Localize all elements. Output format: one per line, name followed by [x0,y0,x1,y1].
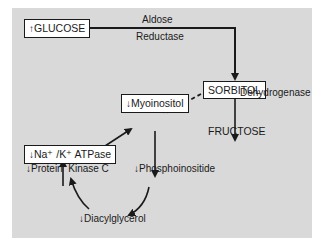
atpase-node: ↓Na⁺ /K⁺ ATPase [24,145,116,164]
dehydrogenase-label: Dehydrogenase [240,87,311,99]
glucose-node: ↑GLUCOSE [24,19,90,38]
fructose-label: FRUCTOSE [208,125,266,137]
myoinositol-label: Myoinositol [131,97,184,109]
reductase-label: Reductase [136,31,184,43]
glucose-label: GLUCOSE [34,22,85,34]
phosphoinositide-label: Phosphoinositide [139,163,215,174]
atpase-label: Na⁺ /K⁺ ATPase [34,148,111,160]
aldose-label: Aldose [142,14,173,26]
phosphoinositide-to-dag-arrow [129,187,149,215]
pkc-node: ↓Protein Kinase C [26,163,109,175]
phosphoinositide-node: ↓Phosphoinositide [134,163,215,175]
myoinositol-node: ↓Myoinositol [121,94,189,113]
diacylglycerol-node: ↓Diacylglycerol [79,213,146,225]
pkc-label: Protein Kinase C [31,163,109,174]
atpase-to-myoinositol-arrow [105,129,131,146]
diacylglycerol-label: Diacylglycerol [84,213,146,224]
dag-to-pkc-arrow [71,179,89,209]
